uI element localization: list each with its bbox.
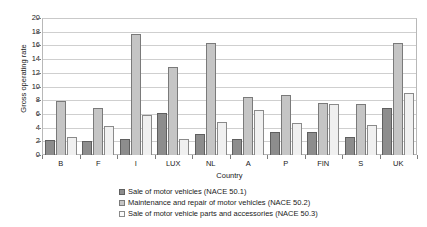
bar xyxy=(104,126,114,155)
chart-legend: Sale of motor vehicles (NACE 50.1)Mainte… xyxy=(119,186,419,219)
y-tickmark xyxy=(37,32,41,33)
bar-group-b xyxy=(42,18,80,155)
x-tickmark xyxy=(417,155,418,159)
bar-chart: Gross operating rate 02468101214161820 B… xyxy=(0,0,427,227)
x-tick-label: FIN xyxy=(305,159,343,168)
x-tick-label: F xyxy=(80,159,118,168)
bar xyxy=(93,108,103,155)
bar xyxy=(217,122,227,155)
legend-swatch-icon xyxy=(119,189,125,195)
bar xyxy=(243,97,253,155)
bar xyxy=(67,137,77,155)
legend-item: Sale of motor vehicles (NACE 50.1) xyxy=(119,186,419,197)
y-tickmark xyxy=(37,114,41,115)
x-tick-label: B xyxy=(42,159,80,168)
bar-group-f xyxy=(80,18,118,155)
bar xyxy=(179,139,189,155)
x-tick-label: P xyxy=(267,159,305,168)
bar xyxy=(232,139,242,155)
y-tickmark xyxy=(37,73,41,74)
bar xyxy=(404,93,414,155)
bar-group-nl xyxy=(192,18,230,155)
bar-group-p xyxy=(267,18,305,155)
x-tick-label: UK xyxy=(380,159,418,168)
y-tickmark xyxy=(37,128,41,129)
y-axis-ticks: 02468101214161820 xyxy=(0,18,40,155)
bar xyxy=(393,43,403,155)
bar xyxy=(131,34,141,155)
bar xyxy=(292,123,302,155)
x-axis-labels: BFILUXNLAPFINSUK xyxy=(42,159,417,168)
legend-swatch-icon xyxy=(119,211,125,217)
x-tick-label: A xyxy=(230,159,268,168)
bar xyxy=(157,113,167,155)
bar xyxy=(345,137,355,155)
bar xyxy=(356,104,366,155)
y-tickmark xyxy=(37,155,41,156)
bar xyxy=(120,139,130,155)
bar xyxy=(281,95,291,155)
x-axis-title: Country xyxy=(42,171,417,180)
bar-groups xyxy=(42,18,417,155)
y-tickmark xyxy=(37,141,41,142)
bar xyxy=(329,104,339,155)
bar-group-a xyxy=(230,18,268,155)
bar xyxy=(142,115,152,155)
legend-label: Sale of motor vehicle parts and accessor… xyxy=(128,209,318,218)
bar-group-uk xyxy=(380,18,418,155)
bar-group-s xyxy=(342,18,380,155)
bar xyxy=(254,110,264,155)
bar xyxy=(382,108,392,155)
bar xyxy=(206,43,216,155)
bar xyxy=(270,132,280,155)
bar xyxy=(307,132,317,155)
legend-label: Sale of motor vehicles (NACE 50.1) xyxy=(128,187,246,196)
legend-item: Sale of motor vehicle parts and accessor… xyxy=(119,208,419,219)
x-tick-label: NL xyxy=(192,159,230,168)
bar xyxy=(168,67,178,155)
x-tick-label: S xyxy=(342,159,380,168)
legend-swatch-icon xyxy=(119,200,125,206)
bar-group-i xyxy=(117,18,155,155)
bar xyxy=(45,140,55,155)
y-tickmark xyxy=(37,59,41,60)
y-tickmark xyxy=(37,18,41,19)
x-tick-label: I xyxy=(117,159,155,168)
x-tick-label: LUX xyxy=(155,159,193,168)
bar-group-lux xyxy=(155,18,193,155)
bar xyxy=(367,125,377,155)
y-tickmark xyxy=(37,100,41,101)
bar xyxy=(195,134,205,155)
bar-group-fin xyxy=(305,18,343,155)
bar xyxy=(82,141,92,155)
y-tickmark xyxy=(37,45,41,46)
legend-label: Maintenance and repair of motor vehicles… xyxy=(128,198,310,207)
y-tickmark xyxy=(37,87,41,88)
legend-item: Maintenance and repair of motor vehicles… xyxy=(119,197,419,208)
bar xyxy=(318,103,328,155)
bar xyxy=(56,101,66,155)
